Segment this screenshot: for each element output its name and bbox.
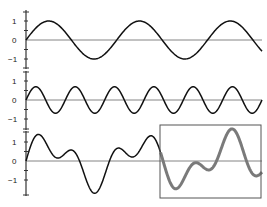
panel-2-high-frequency-sine: 1 0 −1: [8, 71, 262, 130]
tick-label-0: 0: [12, 157, 17, 166]
stacked-waveform-chart: 1 0 −1 1 0 −1 1 0 −1: [0, 0, 267, 207]
panel-1-low-frequency-sine: 1 0 −1: [8, 10, 262, 69]
tick-label-0: 0: [12, 96, 17, 105]
tick-label-1: 1: [12, 77, 17, 86]
highlighted-sum-segment: [161, 129, 262, 189]
tick-label-neg1: −1: [8, 55, 18, 64]
panel-3-sum-of-sines: 1 0 −1: [8, 125, 262, 198]
tick-label-0: 0: [12, 36, 17, 45]
tick-label-neg1: −1: [8, 176, 18, 185]
tick-label-1: 1: [12, 17, 17, 26]
tick-label-neg1: −1: [8, 115, 18, 124]
sum-curve: [26, 134, 161, 193]
tick-label-1: 1: [12, 138, 17, 147]
